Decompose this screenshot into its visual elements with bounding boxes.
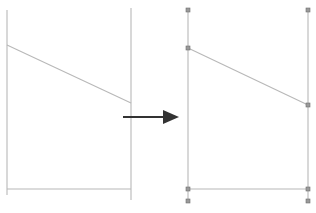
- vertex-diagonal-start[interactable]: [186, 46, 190, 50]
- source-upper-diagonal-edge: [7, 45, 131, 103]
- vertex-top-right[interactable]: [306, 8, 310, 12]
- arrow-head-icon: [163, 110, 179, 124]
- result-upper-diagonal-edge: [188, 48, 308, 105]
- vertex-base-left[interactable]: [186, 199, 190, 203]
- source-shape-group: [7, 8, 131, 200]
- vertex-top-left[interactable]: [186, 8, 190, 12]
- vertex-bottom-left[interactable]: [186, 187, 190, 191]
- vertex-diagonal-end[interactable]: [306, 103, 310, 107]
- diagram-svg: [0, 0, 316, 213]
- result-shape-group: [186, 8, 310, 203]
- diagram-canvas: Before-and-after geometry diagram: a wir…: [0, 0, 316, 213]
- vertex-base-right[interactable]: [306, 199, 310, 203]
- vertex-handle-group[interactable]: [186, 8, 310, 203]
- vertex-bottom-right[interactable]: [306, 187, 310, 191]
